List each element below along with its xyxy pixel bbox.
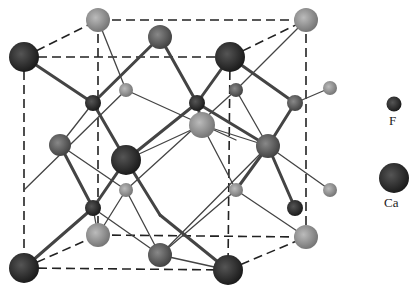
ca-atom [215, 42, 245, 72]
legend-f-symbol [387, 97, 402, 112]
ca-atom [294, 225, 318, 249]
legend-f-label: F [389, 113, 396, 129]
ca-atom [148, 243, 172, 267]
ca-atom [49, 134, 71, 156]
ca-atom [189, 112, 215, 138]
ca-atom [86, 8, 110, 32]
f-atom [189, 95, 205, 111]
f-atom [119, 183, 133, 197]
ca-atom [294, 8, 318, 32]
ca-atom [148, 25, 172, 49]
ca-atom [213, 255, 243, 285]
ca-atom [111, 145, 141, 175]
f-atom [85, 200, 101, 216]
f-atom [229, 83, 243, 97]
ca-atoms [9, 8, 318, 285]
ca-atom [86, 223, 110, 247]
legend-ca-symbol [379, 163, 409, 193]
ca-atom [256, 134, 280, 158]
legend [379, 97, 409, 194]
f-atom [287, 95, 303, 111]
legend-ca-label: Ca [384, 195, 398, 211]
crystal-structure-diagram [0, 0, 417, 289]
f-atom [323, 183, 337, 197]
ca-atom [9, 253, 39, 283]
f-atom [85, 95, 101, 111]
f-atom [119, 83, 133, 97]
f-atom [229, 183, 243, 197]
f-atom [287, 200, 303, 216]
ca-atom [9, 42, 39, 72]
f-atom [323, 81, 337, 95]
